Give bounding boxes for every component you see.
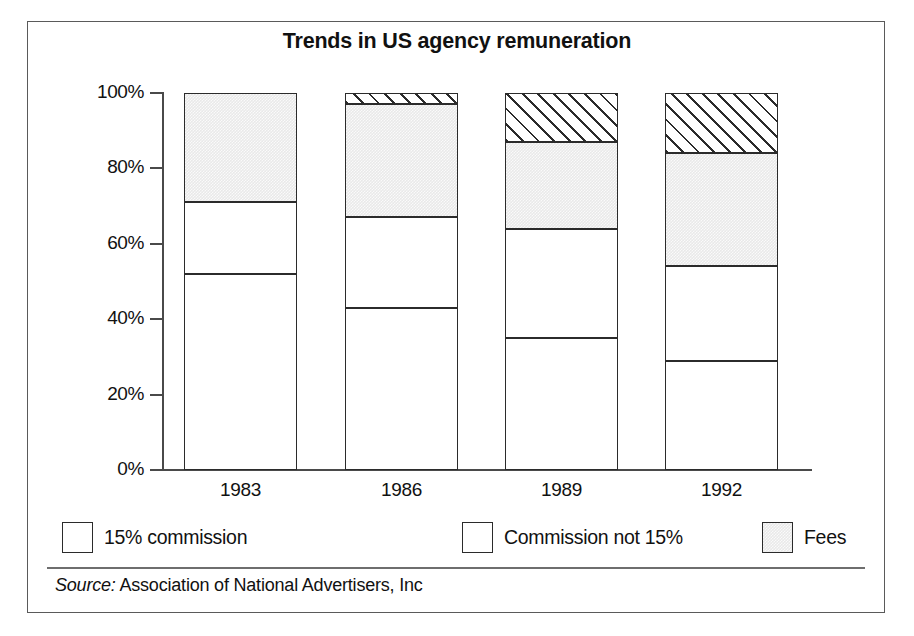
- bar-segment-15commission: [345, 308, 458, 470]
- plot-area: [170, 93, 810, 470]
- source-divider: [47, 567, 865, 569]
- bar-segment-fees: [505, 142, 618, 229]
- bar-segment-other: [665, 93, 778, 153]
- x-tick-label: 1989: [482, 479, 642, 501]
- legend-label: Fees: [804, 526, 846, 549]
- commissionnot15-swatch: [462, 522, 493, 553]
- x-tick-label: 1986: [322, 479, 482, 501]
- bar-1983: [184, 93, 297, 470]
- source-note: Source: Association of National Advertis…: [55, 575, 423, 596]
- y-tick-mark: [150, 394, 163, 396]
- y-tick-label-wrap: 100%: [44, 81, 144, 103]
- y-tick-label: 80%: [58, 156, 144, 178]
- bar-segment-15commission: [665, 361, 778, 470]
- bar-segment-commissionnot15: [345, 217, 458, 307]
- legend-item-fees[interactable]: Fees: [762, 519, 846, 555]
- bar-segment-other: [505, 93, 618, 142]
- bar-segment-fees: [345, 104, 458, 217]
- bar-segment-commissionnot15: [505, 229, 618, 338]
- bar-segment-commissionnot15: [184, 202, 297, 274]
- fees-swatch: [762, 522, 793, 553]
- chart-title: Trends in US agency remuneration: [0, 29, 914, 54]
- y-tick-label: 100%: [58, 81, 144, 103]
- y-tick-label-wrap: 40%: [44, 307, 144, 329]
- chart-figure: Trends in US agency remuneration 0%20%40…: [0, 0, 914, 636]
- y-tick-label: 40%: [58, 307, 144, 329]
- x-tick-label: 1983: [161, 479, 321, 501]
- chart-legend: 15% commissionCommission not 15%FeesOthe…: [62, 519, 862, 561]
- bar-segment-other: [345, 93, 458, 104]
- y-tick-label-wrap: 60%: [44, 232, 144, 254]
- bar-segment-15commission: [505, 338, 618, 470]
- y-axis-line: [162, 92, 164, 471]
- bar-1989: [505, 93, 618, 470]
- bar-segment-fees: [665, 153, 778, 266]
- y-tick-label: 60%: [58, 232, 144, 254]
- bar-segment-fees: [184, 93, 297, 202]
- y-tick-mark: [150, 318, 163, 320]
- bar-segment-commissionnot15: [665, 266, 778, 360]
- y-tick-label-wrap: 20%: [44, 383, 144, 405]
- legend-label: 15% commission: [104, 526, 247, 549]
- bar-1986: [345, 93, 458, 470]
- y-tick-label: 20%: [58, 383, 144, 405]
- legend-label: Commission not 15%: [504, 526, 683, 549]
- x-tick-label: 1992: [642, 479, 802, 501]
- y-tick-label-wrap: 0%: [44, 458, 144, 480]
- bar-segment-15commission: [184, 274, 297, 470]
- legend-item-commissionnot15[interactable]: Commission not 15%: [462, 519, 683, 555]
- legend-item-15commission[interactable]: 15% commission: [62, 519, 247, 555]
- y-tick-label: 0%: [58, 458, 144, 480]
- y-tick-mark: [150, 92, 163, 94]
- y-tick-mark: [150, 469, 163, 471]
- bar-1992: [665, 93, 778, 470]
- source-label: Source:: [55, 575, 116, 595]
- y-tick-mark: [150, 243, 163, 245]
- y-tick-mark: [150, 167, 163, 169]
- source-text: Association of National Advertisers, Inc: [119, 575, 422, 595]
- y-tick-label-wrap: 80%: [44, 156, 144, 178]
- commission15-swatch: [62, 522, 93, 553]
